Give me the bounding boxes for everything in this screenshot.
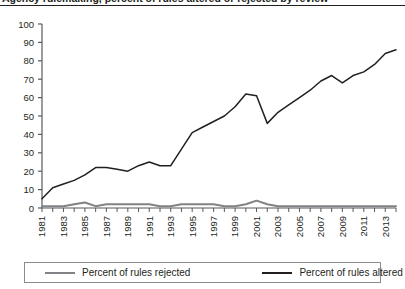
legend-item-altered: Percent of rules altered: [262, 267, 402, 278]
x-axis-tick-label: 1997: [208, 216, 219, 237]
x-axis-tick-label: 1985: [79, 216, 90, 237]
y-axis-tick-label: 60: [23, 92, 34, 103]
legend-item-rejected: Percent of rules rejected: [45, 267, 190, 278]
x-axis-tick-label: 1995: [187, 216, 198, 237]
chart-plot-area: 0102030405060708090100198119831985198719…: [0, 0, 405, 260]
chart-series-line: [42, 50, 396, 199]
x-axis-tick-label: 2011: [358, 216, 369, 236]
y-axis-tick-label: 10: [23, 184, 34, 195]
x-axis-tick-label: 1987: [101, 216, 112, 237]
y-axis-tick-label: 0: [29, 203, 34, 214]
x-axis-tick-label: 2007: [315, 216, 326, 237]
x-axis-tick-label: 1991: [144, 216, 155, 237]
x-axis-tick-label: 1981: [36, 216, 47, 237]
x-axis-tick-label: 2005: [294, 216, 305, 237]
legend-label-altered: Percent of rules altered: [299, 267, 402, 278]
x-axis-tick-label: 2001: [251, 216, 262, 237]
x-axis-tick-label: 1983: [58, 216, 69, 237]
y-axis-tick-label: 30: [23, 147, 34, 158]
chart-figure: Agency rulemaking, percent of rules alte…: [0, 0, 405, 289]
y-axis-tick-label: 50: [23, 111, 34, 122]
y-axis-tick-label: 20: [23, 166, 34, 177]
chart-series-line: [42, 201, 396, 207]
y-axis-tick-label: 90: [23, 37, 34, 48]
x-axis-tick-label: 1999: [229, 216, 240, 237]
legend-swatch-altered-icon: [262, 272, 292, 274]
chart-legend: Percent of rules rejected Percent of rul…: [24, 262, 381, 283]
x-axis-tick-label: 2003: [272, 216, 283, 237]
legend-label-rejected: Percent of rules rejected: [82, 267, 190, 278]
y-axis-tick-label: 40: [23, 129, 34, 140]
x-axis-tick-label: 1989: [122, 216, 133, 237]
x-axis-tick-label: 2009: [337, 216, 348, 237]
y-axis-tick-label: 80: [23, 55, 34, 66]
legend-swatch-rejected-icon: [45, 272, 75, 274]
x-axis-tick-label: 2013: [380, 216, 391, 237]
y-axis-tick-label: 70: [23, 74, 34, 85]
y-axis-tick-label: 100: [18, 19, 34, 30]
x-axis-tick-label: 1993: [165, 216, 176, 237]
